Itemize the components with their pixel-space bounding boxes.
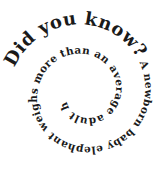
headline-text: Did you know? [0,7,152,69]
spiral-text: Did you know? A newborn baby elephant we… [0,0,155,157]
spiral-text-graphic: Did you know? A newborn baby elephant we… [0,0,165,173]
